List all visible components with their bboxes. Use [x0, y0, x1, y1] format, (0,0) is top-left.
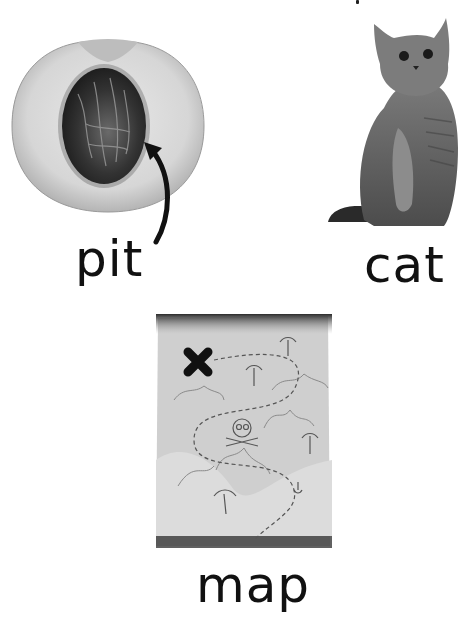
treasure-map-icon: [154, 310, 332, 550]
top-edge-mark: [356, 0, 359, 4]
cat-icon: [324, 8, 464, 234]
word-cat: cat: [364, 240, 445, 290]
curved-arrow-icon: [140, 138, 180, 248]
word-map: map: [196, 560, 310, 610]
word-pit: pit: [75, 234, 143, 284]
